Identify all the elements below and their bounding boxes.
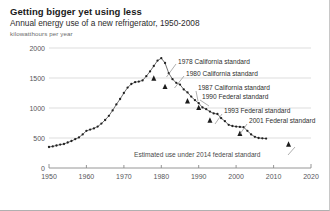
data-point xyxy=(153,65,155,67)
y-tick-label-1000: 1000 xyxy=(29,105,45,112)
data-point xyxy=(209,110,211,112)
y-tick-label-1500: 1500 xyxy=(29,75,45,82)
data-point xyxy=(257,137,259,139)
data-point xyxy=(254,136,256,138)
data-point xyxy=(108,115,110,117)
y-tick-label-0: 0 xyxy=(41,165,45,172)
data-point xyxy=(130,83,132,85)
data-point xyxy=(265,137,267,139)
data-point xyxy=(250,133,252,135)
data-point xyxy=(231,125,233,127)
x-tick-label-1990: 1990 xyxy=(191,173,207,180)
data-point xyxy=(239,126,241,128)
leader-line-1990 xyxy=(200,100,209,106)
data-point xyxy=(115,103,117,105)
data-point xyxy=(205,108,207,110)
annotation-1980-california: 1980 California standard xyxy=(186,70,258,77)
standard-marker-triangle xyxy=(286,141,291,146)
data-point xyxy=(228,124,230,126)
data-point xyxy=(145,75,147,77)
data-point xyxy=(48,146,50,148)
data-point xyxy=(171,78,173,80)
data-point xyxy=(55,144,57,146)
x-tick-label-2020: 2020 xyxy=(303,173,319,180)
data-point xyxy=(183,88,185,90)
data-point xyxy=(93,127,95,129)
data-point xyxy=(111,109,113,111)
data-point xyxy=(213,112,215,114)
data-point xyxy=(261,137,263,139)
data-point xyxy=(149,70,151,72)
data-point xyxy=(134,81,136,83)
data-point xyxy=(164,62,166,64)
standard-marker-triangle xyxy=(185,98,190,103)
data-point xyxy=(190,95,192,97)
standard-marker-triangle xyxy=(163,84,168,89)
data-point xyxy=(104,119,106,121)
data-point xyxy=(52,145,54,147)
data-point xyxy=(224,120,226,122)
data-point xyxy=(123,92,125,94)
data-point xyxy=(246,130,248,132)
data-point xyxy=(59,143,61,145)
x-tick-label-2000: 2000 xyxy=(228,173,244,180)
data-point xyxy=(97,125,99,127)
data-point xyxy=(198,102,200,104)
data-point xyxy=(89,128,91,130)
data-point xyxy=(141,79,143,81)
leader-line-1987 xyxy=(196,91,198,101)
data-point xyxy=(119,98,121,100)
chart-plot-area: 2000 1500 1000 500 0 1950 1960 1970 1980… xyxy=(0,0,330,211)
data-point xyxy=(186,91,188,93)
annotation-2001-federal: 2001 Federal standard xyxy=(249,117,316,124)
data-point xyxy=(138,80,140,82)
data-point xyxy=(74,138,76,140)
annotation-1993-federal: 1993 Federal standard xyxy=(224,107,291,114)
x-tick-label-1980: 1980 xyxy=(154,173,170,180)
annotation-1987-california: 1987 California standard xyxy=(198,84,270,91)
y-tick-label-2000: 2000 xyxy=(29,45,45,52)
standard-marker-triangle xyxy=(207,117,212,122)
annotation-1990-federal: 1990 Federal standard xyxy=(202,93,269,100)
data-point xyxy=(194,99,196,101)
data-point xyxy=(100,122,102,124)
data-point xyxy=(179,83,181,85)
data-point xyxy=(156,59,158,61)
annotation-2014-estimated: Estimated use under 2014 federal standar… xyxy=(134,151,261,158)
y-tick-label-500: 500 xyxy=(33,135,45,142)
x-tick-label-1960: 1960 xyxy=(79,173,95,180)
data-point xyxy=(85,130,87,132)
data-point xyxy=(216,113,218,115)
data-point xyxy=(63,143,65,145)
data-point xyxy=(126,86,128,88)
data-point xyxy=(67,141,69,143)
chart-figure: Getting bigger yet using less Annual ene… xyxy=(0,0,330,211)
annotation-1978-california: 1978 California standard xyxy=(178,58,250,65)
data-point xyxy=(70,140,72,142)
data-point xyxy=(82,133,84,135)
data-point xyxy=(175,82,177,84)
y-axis-labels: 2000 1500 1000 500 0 xyxy=(29,45,45,172)
x-axis xyxy=(49,164,311,168)
leader-line-2014 xyxy=(288,147,295,155)
x-tick-label-2010: 2010 xyxy=(266,173,282,180)
data-point xyxy=(235,125,237,127)
data-point xyxy=(160,57,162,59)
x-axis-labels: 1950 1960 1970 1980 1990 2000 2010 2020 xyxy=(41,173,319,180)
data-point xyxy=(78,136,80,138)
data-point xyxy=(220,117,222,119)
x-tick-label-1950: 1950 xyxy=(41,173,57,180)
x-tick-label-1970: 1970 xyxy=(116,173,132,180)
data-point xyxy=(201,106,203,108)
